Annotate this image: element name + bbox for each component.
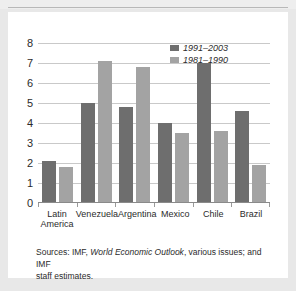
bar: [59, 167, 73, 203]
x-axis-tick-marks: [38, 203, 270, 207]
bar-group: [154, 43, 193, 203]
bar-group: [193, 43, 232, 203]
plot-area: 876543210: [38, 43, 270, 203]
source-publication-title: World Economic Outlook: [90, 247, 184, 257]
x-tick: [231, 203, 270, 207]
chart-legend: 1991–20031981–1990: [170, 42, 228, 66]
bar: [252, 165, 266, 203]
x-axis-label-line: Chile: [194, 209, 232, 219]
bar: [136, 67, 150, 203]
x-tick: [38, 203, 77, 207]
bar: [214, 131, 228, 203]
legend-item: 1981–1990: [170, 54, 228, 65]
x-axis-category-labels: LatinAmericaVenezuelaArgentinaMexicoChil…: [38, 209, 270, 229]
bar: [42, 161, 56, 203]
bar: [98, 61, 112, 203]
source-line-2: staff estimates.: [36, 270, 268, 282]
x-axis-label-line: Argentina: [118, 209, 157, 219]
y-tick-label-7: 7: [27, 57, 33, 69]
legend-swatch-icon: [170, 45, 179, 51]
bar: [81, 103, 95, 203]
x-axis-label-chile: Chile: [194, 209, 232, 229]
y-tick-label-5: 5: [27, 97, 33, 109]
x-axis-label-argentina: Argentina: [118, 209, 157, 229]
source-note: Sources: IMF, World Economic Outlook, va…: [36, 246, 268, 282]
y-tick-label-2: 2: [27, 157, 33, 169]
x-tick: [193, 203, 232, 207]
bar: [235, 111, 249, 203]
bar: [119, 107, 133, 203]
bar: [175, 133, 189, 203]
bar: [197, 63, 211, 203]
bar-groups: [38, 43, 270, 203]
y-tick-label-6: 6: [27, 77, 33, 89]
y-tick-label-1: 1: [27, 177, 33, 189]
chart-panel: 876543210 LatinAmericaVenezuelaArgentina…: [8, 12, 288, 278]
source-prefix: Sources: IMF,: [36, 247, 90, 257]
x-tick: [154, 203, 193, 207]
title-divider-rule: [8, 7, 288, 8]
bar-group: [231, 43, 270, 203]
x-axis-label-line: Venezuela: [76, 209, 118, 219]
x-axis-label-line: Mexico: [156, 209, 194, 219]
x-axis-label-brazil: Brazil: [232, 209, 270, 229]
source-line-1: Sources: IMF, World Economic Outlook, va…: [36, 247, 261, 269]
legend-swatch-icon: [170, 57, 179, 63]
x-axis-label-line: Latin: [38, 209, 76, 219]
x-axis-label-venezuela: Venezuela: [76, 209, 118, 229]
bar-group: [38, 43, 77, 203]
x-axis-label-line: Brazil: [232, 209, 270, 219]
legend-label: 1991–2003: [183, 43, 228, 53]
bar-group: [77, 43, 116, 203]
legend-label: 1981–1990: [183, 55, 228, 65]
x-axis-label-latin-america: LatinAmerica: [38, 209, 76, 229]
y-tick-label-8: 8: [27, 37, 33, 49]
y-tick-label-3: 3: [27, 137, 33, 149]
bar-group: [115, 43, 154, 203]
x-axis-label-line: America: [38, 219, 76, 229]
y-tick-label-4: 4: [27, 117, 33, 129]
x-axis-label-mexico: Mexico: [156, 209, 194, 229]
legend-item: 1991–2003: [170, 42, 228, 53]
bar: [158, 123, 172, 203]
x-tick: [115, 203, 154, 207]
x-tick: [77, 203, 116, 207]
y-tick-label-0: 0: [27, 197, 33, 209]
